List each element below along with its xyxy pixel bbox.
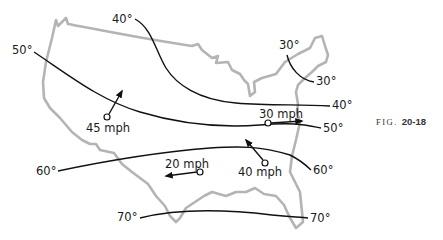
wind-30mph-label: 30 mph	[259, 109, 303, 121]
isotherm-40-start-label: 40°	[112, 14, 132, 26]
isotherm-40-end-label: 40°	[332, 100, 352, 112]
isotherm-30-start-label: 30°	[279, 40, 299, 52]
weather-map-figure: 30° 30° 40° 40° 50° 50° 60° 60° 70° 70° …	[0, 0, 443, 240]
wind-45mph-label: 45 mph	[86, 123, 130, 135]
isotherm-50-end-label: 50°	[323, 123, 343, 135]
isotherm-60-end-label: 60°	[313, 165, 333, 177]
figure-caption: FIG. 20-18	[376, 116, 426, 127]
isotherm-70-end-label: 70°	[310, 213, 330, 225]
wind-40mph-label: 40 mph	[238, 167, 282, 179]
wind-20mph-label: 20 mph	[165, 159, 209, 171]
wind-arrow-45mph	[104, 91, 122, 120]
caption-prefix: FIG.	[376, 117, 398, 127]
caption-number: 20-18	[402, 116, 426, 127]
isotherm-40-line	[135, 19, 330, 106]
isotherm-70-start-label: 70°	[117, 212, 137, 224]
isotherm-30-end-label: 30°	[316, 76, 336, 88]
isotherm-50-start-label: 50°	[12, 45, 32, 57]
wind-arrow-40mph	[246, 140, 268, 166]
isotherm-70-line	[140, 211, 308, 218]
isotherm-60-start-label: 60°	[36, 166, 56, 178]
